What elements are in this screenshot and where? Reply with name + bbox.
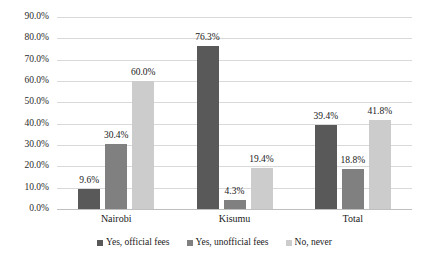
x-axis-category-label: Nairobi: [57, 213, 175, 224]
legend-swatch-icon: [97, 240, 103, 246]
gridline-80.0%: [57, 38, 412, 39]
gridline-40.0%: [57, 124, 412, 125]
bar: [224, 200, 246, 209]
legend-swatch-icon: [187, 240, 193, 246]
bar: [132, 81, 154, 209]
bar: [78, 189, 100, 209]
y-axis-tick-label: 80.0%: [24, 32, 49, 42]
bar: [105, 144, 127, 209]
bar-value-label: 41.8%: [358, 106, 402, 116]
bar: [197, 46, 219, 209]
chart-legend: Yes, official feesYes, unofficial feesNo…: [0, 238, 429, 248]
y-axis-tick-label: 50.0%: [24, 96, 49, 106]
bar-value-label: 76.3%: [186, 32, 230, 42]
y-axis-tick-label: 0.0%: [29, 203, 49, 213]
bar: [251, 168, 273, 209]
gridline-90.0%: [57, 17, 412, 18]
y-axis-tick-label: 10.0%: [24, 182, 49, 192]
gridline-70.0%: [57, 60, 412, 61]
plot-area: 9.6%30.4%60.0%76.3%4.3%19.4%39.4%18.8%41…: [57, 17, 412, 209]
bar: [342, 169, 364, 209]
y-axis-tick-label: 30.0%: [24, 139, 49, 149]
legend-swatch-icon: [286, 240, 292, 246]
gridline-50.0%: [57, 102, 412, 103]
y-axis: 0.0%10.0%20.0%30.0%40.0%50.0%60.0%70.0%8…: [0, 0, 53, 266]
gridline-60.0%: [57, 81, 412, 82]
bar-chart: 0.0%10.0%20.0%30.0%40.0%50.0%60.0%70.0%8…: [0, 0, 429, 266]
y-axis-tick-label: 20.0%: [24, 160, 49, 170]
legend-item[interactable]: Yes, official fees: [97, 238, 170, 248]
legend-item[interactable]: No, never: [286, 238, 332, 248]
y-axis-tick-label: 90.0%: [24, 11, 49, 21]
bar: [369, 120, 391, 209]
legend-item[interactable]: Yes, unofficial fees: [187, 238, 269, 248]
legend-label: Yes, unofficial fees: [196, 238, 269, 248]
legend-label: No, never: [295, 238, 332, 248]
axis-baseline: [57, 209, 412, 210]
bar-value-label: 60.0%: [121, 67, 165, 77]
bar: [315, 125, 337, 209]
y-axis-tick-label: 60.0%: [24, 75, 49, 85]
y-axis-tick-label: 40.0%: [24, 118, 49, 128]
bar-value-label: 39.4%: [304, 111, 348, 121]
bar-value-label: 19.4%: [240, 154, 284, 164]
legend-label: Yes, official fees: [106, 238, 170, 248]
y-axis-tick-label: 70.0%: [24, 54, 49, 64]
x-axis-category-label: Kisumu: [175, 213, 293, 224]
x-axis-category-label: Total: [294, 213, 412, 224]
